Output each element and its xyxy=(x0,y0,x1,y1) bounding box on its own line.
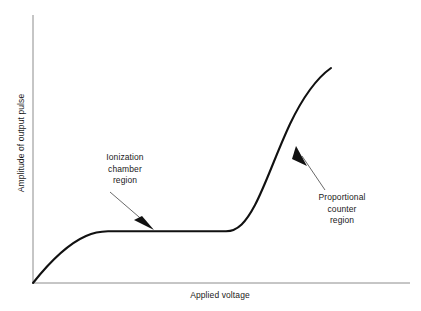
proportional-arrow-head-fill xyxy=(292,146,307,166)
x-axis-label: Applied voltage xyxy=(130,290,310,300)
proportional-counter-arrow xyxy=(292,146,325,190)
detector-response-chart xyxy=(0,0,421,311)
ionization-arrow-head xyxy=(134,216,154,230)
annotation-proportional-counter-region: Proportional counter region xyxy=(287,192,397,227)
y-axis-label: Amplitude of output pulse xyxy=(16,78,26,208)
annotation-ionization-chamber-region: Ionization chamber region xyxy=(70,152,180,187)
proportional-arrow-shaft xyxy=(302,156,325,190)
ionization-chamber-arrow xyxy=(110,192,154,230)
